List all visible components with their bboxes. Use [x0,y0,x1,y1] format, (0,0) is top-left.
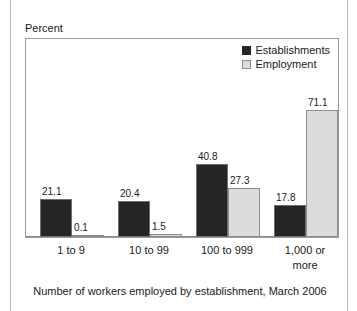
bar-employment-1 [150,234,182,237]
bar-establishments-3 [274,205,306,237]
bar-establishments-2 [196,164,228,237]
bar-value-label: 20.4 [120,188,139,199]
bar-employment-2 [228,188,260,237]
x-label-line: 1,000 or [261,243,349,258]
bar-value-label: 0.1 [74,222,88,233]
x-label-1: 10 to 99 [105,243,193,258]
x-label-3: 1,000 ormore [261,243,349,273]
chart-caption: Number of workers employed by establishm… [11,285,349,297]
bar-value-label: 71.1 [308,97,327,108]
bar-value-label: 40.8 [198,151,217,162]
x-label-line: more [261,258,349,273]
bar-group: 20.41.5 [118,38,182,237]
plot-area: 21.10.120.41.540.827.317.871.1 [26,38,338,237]
bar-value-label: 1.5 [152,221,166,232]
bar-group: 21.10.1 [40,38,104,237]
x-axis-category-labels: 1 to 910 to 99100 to 9991,000 ormore [25,243,339,283]
x-label-line: 1 to 9 [27,243,115,258]
bar-group: 40.827.3 [196,38,260,237]
x-label-2: 100 to 999 [183,243,271,258]
cropped-title-strip [11,2,347,14]
bar-value-label: 17.8 [276,192,295,203]
x-label-line: 10 to 99 [105,243,193,258]
bar-value-label: 27.3 [230,175,249,186]
x-label-0: 1 to 9 [27,243,115,258]
bar-establishments-0 [40,199,72,237]
x-label-line: 100 to 999 [183,243,271,258]
chart-figure: Percent Establishments Employment 21.10.… [10,0,348,311]
y-axis-title: Percent [25,22,63,34]
bar-employment-3 [306,110,338,237]
bar-value-label: 21.1 [42,186,61,197]
bar-establishments-1 [118,201,150,237]
bar-group: 17.871.1 [274,38,338,237]
bar-employment-0 [72,235,104,237]
plot-frame: Establishments Employment 21.10.120.41.5… [25,38,339,238]
